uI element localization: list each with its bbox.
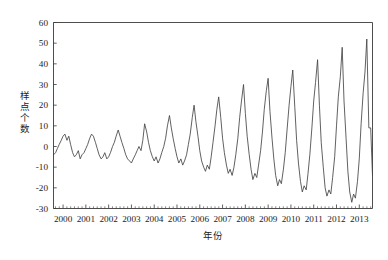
y-axis-title-char: 点 bbox=[20, 101, 30, 112]
x-tick-label: 2002 bbox=[99, 214, 118, 224]
x-tick-label: 2004 bbox=[145, 214, 164, 224]
y-tick-label: 50 bbox=[39, 38, 49, 48]
x-tick-label: 2001 bbox=[77, 214, 96, 224]
y-axis-title-char: 样 bbox=[20, 90, 30, 101]
y-axis-title-char: 数 bbox=[20, 123, 30, 134]
y-tick-label: 10 bbox=[39, 121, 49, 131]
x-tick-label: 2007 bbox=[213, 214, 232, 224]
y-tick-label: 40 bbox=[39, 59, 49, 69]
x-axis-title-text: 年份 bbox=[203, 230, 223, 241]
chart-figure: 6050403020100-10-20-30 20002001200220032… bbox=[0, 0, 388, 260]
x-axis-title: 年份 bbox=[203, 230, 223, 241]
y-tick-label: 20 bbox=[39, 100, 49, 110]
y-axis-title-char: 个 bbox=[20, 112, 30, 123]
y-tick-label: -10 bbox=[36, 162, 49, 172]
x-tick-label: 2005 bbox=[168, 214, 187, 224]
y-tick-label: -30 bbox=[36, 204, 49, 214]
x-tick-label: 2006 bbox=[191, 214, 210, 224]
x-tick-label: 2012 bbox=[327, 214, 346, 224]
x-tick-label: 2000 bbox=[54, 214, 73, 224]
y-tick-label: 30 bbox=[39, 80, 49, 90]
x-tick-label: 2010 bbox=[282, 214, 301, 224]
x-tick-label: 2003 bbox=[122, 214, 141, 224]
y-tick-label: 60 bbox=[39, 18, 49, 28]
x-tick-label: 2009 bbox=[259, 214, 278, 224]
y-axis-title: 样点个数 bbox=[20, 90, 30, 135]
time-series-line-chart: 6050403020100-10-20-30 20002001200220032… bbox=[0, 0, 388, 260]
y-tick-label: -20 bbox=[36, 183, 49, 193]
x-tick-label: 2013 bbox=[350, 214, 369, 224]
x-tick-label: 2008 bbox=[236, 214, 255, 224]
y-tick-label: 0 bbox=[43, 142, 48, 152]
x-tick-label: 2011 bbox=[305, 214, 323, 224]
